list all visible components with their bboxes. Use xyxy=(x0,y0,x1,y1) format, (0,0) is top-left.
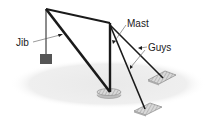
label-mast: Mast xyxy=(127,18,149,29)
arrow-guys-rear xyxy=(138,46,142,50)
ground-plane xyxy=(10,59,206,109)
crane-diagram: Jib Mast Guys xyxy=(0,0,212,123)
arrow-mast xyxy=(112,40,116,44)
arrow-jib xyxy=(58,34,63,37)
label-guys: Guys xyxy=(148,42,171,53)
load-weight xyxy=(40,54,52,64)
label-jib: Jib xyxy=(16,37,29,48)
